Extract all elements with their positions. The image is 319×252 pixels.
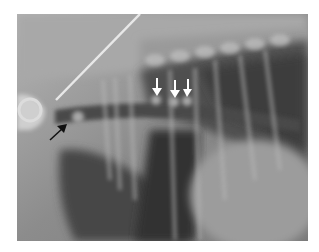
radiograph-image bbox=[17, 14, 308, 241]
white-arrow-icon bbox=[183, 79, 192, 97]
white-arrow-icon bbox=[170, 80, 180, 98]
black-arrow-icon bbox=[50, 124, 67, 140]
white-arrow-icon bbox=[152, 78, 162, 96]
